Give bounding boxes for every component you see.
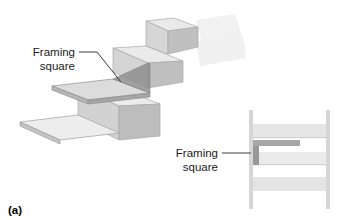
staircase-3d-drawing: Framing square: [20, 14, 246, 144]
inset-divider-1: [253, 137, 326, 138]
figure-caption: (a): [8, 204, 22, 216]
inset-divider-2: [253, 164, 326, 165]
inset-band-3: [253, 177, 326, 191]
main-label-line2: square: [40, 60, 75, 72]
figure-container: Framing square: [0, 0, 342, 220]
stair-step-top-side-face: [168, 27, 198, 54]
inset-label-line1: Framing: [176, 147, 218, 159]
inset-band-2: [253, 152, 326, 164]
inset-right-rail: [326, 110, 330, 209]
main-label-line1: Framing: [33, 46, 75, 58]
inset-side-view-drawing: Framing square: [176, 110, 330, 209]
stair-step-middle-side-face: [148, 61, 183, 88]
framing-square-illustration: Framing square: [0, 0, 342, 220]
inset-label-line2: square: [183, 161, 218, 173]
staircase-soft-shadow: [196, 14, 246, 66]
inset-band-1: [253, 124, 326, 137]
stair-step-top: [146, 18, 198, 54]
inset-left-rail: [249, 110, 253, 209]
stair-step-bottom-side-face: [119, 104, 160, 140]
inset-square-blade: [253, 140, 300, 146]
